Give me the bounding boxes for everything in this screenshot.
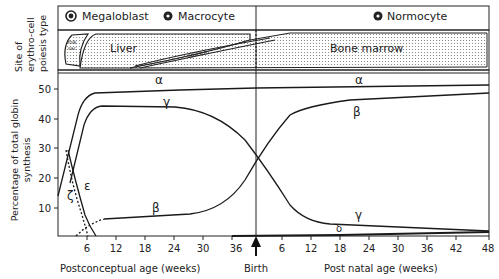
megaloblast-label: Megaloblast bbox=[82, 10, 149, 23]
beta-early-curve bbox=[76, 219, 104, 236]
beta-curve bbox=[104, 93, 489, 219]
gamma-label: γ bbox=[163, 95, 170, 109]
x-label-prenatal: Postconceptual age (weeks) bbox=[60, 263, 200, 274]
normocyte-icon bbox=[374, 12, 383, 21]
y-axis: 50 40 30 20 10 bbox=[38, 84, 58, 214]
macrocyte-icon bbox=[164, 12, 173, 21]
alpha-label-postnatal: α bbox=[355, 73, 363, 87]
birth-label: Birth bbox=[244, 263, 268, 274]
svg-text:12: 12 bbox=[305, 243, 318, 254]
macrocyte-label: Macrocyte bbox=[178, 10, 235, 23]
epsilon-label: ε bbox=[84, 179, 91, 193]
liver-label: Liver bbox=[110, 42, 137, 55]
gamma-curve bbox=[70, 106, 489, 231]
birth-arrow-icon bbox=[251, 236, 261, 256]
cell-type-row: Megaloblast Macrocyte Normocyte bbox=[58, 6, 489, 30]
svg-text:Site of: Site of bbox=[13, 41, 24, 72]
delta-curve bbox=[232, 232, 489, 236]
svg-text:sac: sac bbox=[68, 45, 77, 51]
zeta-label: ζ bbox=[67, 189, 74, 203]
x-axis bbox=[87, 236, 489, 240]
svg-text:36: 36 bbox=[421, 243, 434, 254]
svg-text:42: 42 bbox=[450, 243, 463, 254]
svg-text:30: 30 bbox=[38, 143, 51, 154]
svg-text:30: 30 bbox=[392, 243, 405, 254]
megaloblast-icon bbox=[66, 11, 76, 21]
svg-text:20: 20 bbox=[38, 173, 51, 184]
gamma-label-postnatal: γ bbox=[355, 208, 362, 222]
svg-text:18: 18 bbox=[334, 243, 347, 254]
svg-text:6: 6 bbox=[279, 243, 285, 254]
series-labels: α α γ γ β β ε ζ δ bbox=[67, 73, 363, 234]
svg-text:synthesis: synthesis bbox=[21, 138, 32, 183]
y-axis-label: Percentage of total globin synthesis bbox=[9, 99, 32, 222]
svg-text:36: 36 bbox=[230, 243, 243, 254]
top-panel-side-label: Site of erythro-cell poiesis type bbox=[13, 15, 48, 72]
svg-text:30: 30 bbox=[197, 243, 210, 254]
normocyte-label: Normocyte bbox=[387, 10, 448, 23]
globin-synthesis-chart: Site of erythro-cell poiesis type Megalo… bbox=[0, 0, 499, 279]
svg-text:18: 18 bbox=[139, 243, 152, 254]
svg-text:40: 40 bbox=[38, 114, 51, 125]
site-row: Yolk sac Liver spleen Bone marrow bbox=[58, 30, 489, 70]
bone-marrow-label: Bone marrow bbox=[330, 42, 403, 55]
svg-text:24: 24 bbox=[363, 243, 376, 254]
svg-text:erythro-cell: erythro-cell bbox=[25, 17, 36, 72]
svg-text:50: 50 bbox=[38, 84, 51, 95]
svg-text:48: 48 bbox=[482, 243, 495, 254]
alpha-label: α bbox=[155, 73, 163, 87]
beta-label: β bbox=[152, 201, 160, 215]
svg-text:24: 24 bbox=[168, 243, 181, 254]
beta-label-postnatal: β bbox=[353, 105, 361, 119]
svg-text:10: 10 bbox=[38, 203, 51, 214]
x-tick-labels: 6 12 18 24 30 36 6 12 18 24 30 36 42 48 bbox=[84, 243, 495, 254]
delta-label: δ bbox=[336, 223, 342, 234]
svg-text:poiesis type: poiesis type bbox=[37, 15, 48, 72]
svg-text:Percentage of total globin: Percentage of total globin bbox=[9, 99, 20, 222]
svg-text:12: 12 bbox=[110, 243, 123, 254]
x-label-postnatal: Post natal age (weeks) bbox=[324, 263, 438, 274]
svg-text:6: 6 bbox=[84, 243, 90, 254]
